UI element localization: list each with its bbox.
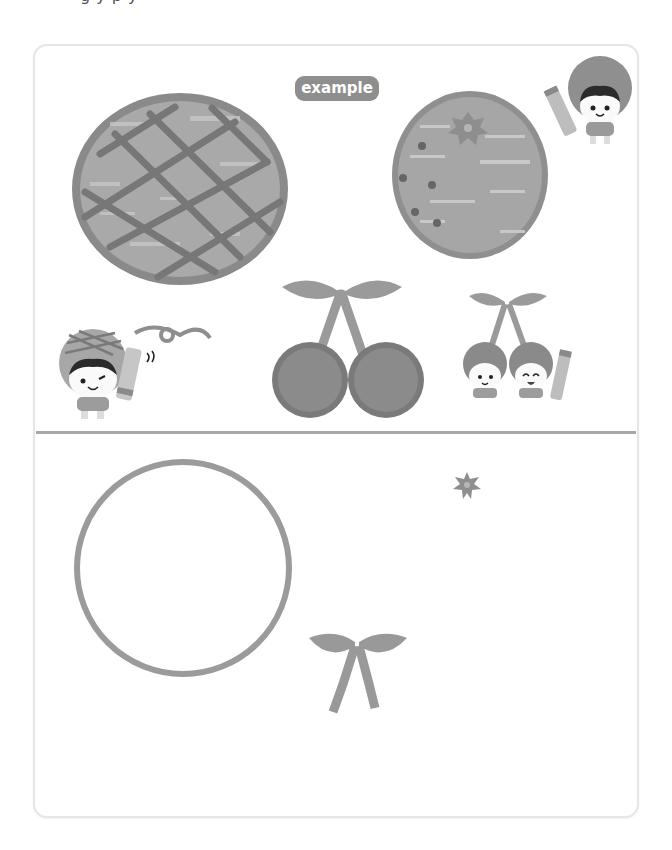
flower-pie-illustration xyxy=(390,90,550,260)
lattice-pie-illustration xyxy=(70,92,290,286)
cherry-kids-characters xyxy=(455,282,585,412)
flower-sticker-icon xyxy=(452,471,482,501)
cherries-illustration xyxy=(270,262,430,422)
leaf-ribbon-stem-icon xyxy=(307,628,407,718)
crayon-icon xyxy=(550,349,572,400)
example-badge: example xyxy=(295,76,379,101)
pie-kid-character xyxy=(55,313,225,423)
section-divider xyxy=(36,431,636,434)
orange-kid-character xyxy=(552,52,642,148)
cropped-header-text: g y p y xyxy=(0,0,672,6)
empty-circle-outline xyxy=(72,457,294,679)
